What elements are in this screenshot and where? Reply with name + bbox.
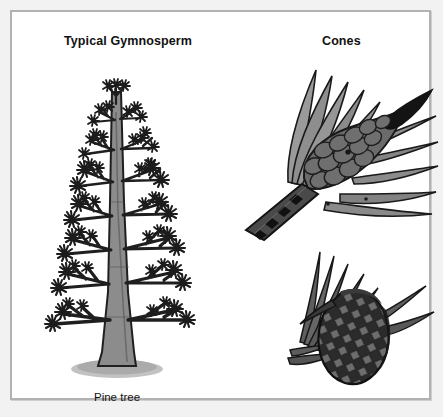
pine-tree-svg [24,52,214,387]
cone-stem [246,184,318,240]
mature-cone-svg [280,238,440,388]
heading-cones: Cones [322,34,361,48]
mature-cone-illustration [280,238,440,388]
young-cone-illustration [240,54,440,244]
heading-typical-gymnosperm: Typical Gymnosperm [64,34,192,48]
figure-plate: Typical Gymnosperm Cones [0,0,443,417]
pine-tree-illustration [24,52,214,387]
young-cone-svg [240,54,440,244]
figure-border: Typical Gymnosperm Cones [10,10,431,400]
caption-pine-tree: Pine tree [94,391,140,403]
cone-apex [386,90,432,129]
